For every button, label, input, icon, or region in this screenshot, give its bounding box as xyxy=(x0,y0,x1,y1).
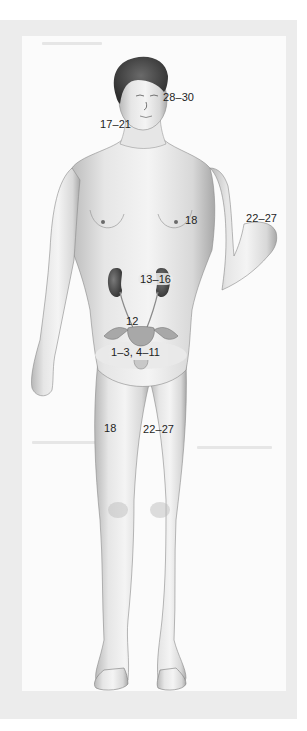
right-arm xyxy=(210,168,277,290)
label-thigh-left: 18 xyxy=(104,422,116,434)
label-bladder: 12 xyxy=(126,315,138,327)
label-kidney: 13–16 xyxy=(138,273,173,285)
label-thigh-right: 22–27 xyxy=(143,423,174,435)
nipple xyxy=(101,220,105,224)
label-upper-arm: 18 xyxy=(185,214,197,226)
label-pelvis: 1–3, 4–11 xyxy=(111,346,160,358)
nipple xyxy=(174,220,178,224)
feet xyxy=(94,668,186,690)
legs xyxy=(95,360,187,687)
label-head: 28–30 xyxy=(163,91,194,103)
left-arm xyxy=(31,168,80,396)
label-neck: 17–21 xyxy=(100,118,131,130)
anatomical-figure xyxy=(0,0,307,731)
knee-shadow xyxy=(108,502,128,518)
label-hand: 22–27 xyxy=(246,212,277,224)
knee-shadow xyxy=(150,502,170,518)
